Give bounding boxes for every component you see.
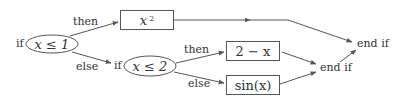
outer-condition-text: x ≤ 1 (35, 37, 70, 52)
inner-end-if: end if (320, 62, 352, 74)
outer-then-label: then (73, 16, 98, 28)
result-box-sin-x: sin(x) (226, 75, 280, 95)
inner-condition-text: x ≤ 2 (133, 59, 168, 74)
x-squared-exponent: 2 (149, 14, 154, 23)
outer-end-if: end if (357, 38, 389, 50)
inner-if-keyword: if (114, 60, 122, 72)
x-squared-base: x (140, 13, 147, 28)
two-minus-x-text: 2 − x (236, 44, 271, 59)
outer-else-label: else (76, 61, 98, 73)
inner-condition: x ≤ 2 (124, 56, 176, 76)
inner-else-label: else (188, 78, 210, 90)
outer-condition: x ≤ 1 (26, 35, 78, 53)
inner-then-label: then (184, 44, 209, 56)
outer-if-keyword: if (16, 38, 24, 50)
result-box-x-squared: x2 (120, 10, 174, 30)
result-box-two-minus-x: 2 − x (226, 41, 280, 61)
sin-x-text: sin(x) (235, 78, 272, 93)
